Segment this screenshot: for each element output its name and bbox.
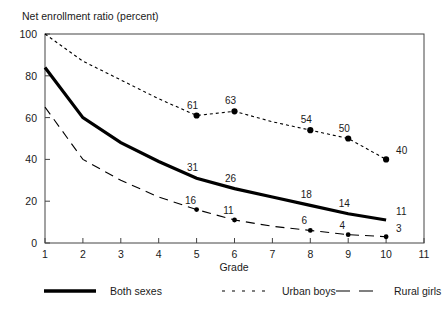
x-tick-label: 9: [345, 248, 351, 260]
data-point-label: 6: [302, 215, 308, 226]
y-tick-label: 100: [19, 28, 37, 40]
chart-series-layer: [45, 34, 386, 237]
y-tick-label: 80: [25, 70, 37, 82]
x-tick-label: 7: [269, 248, 275, 260]
y-axis-tick-labels: 020406080100: [19, 28, 37, 249]
legend-label-both-sexes: Both sexes: [110, 285, 162, 297]
data-point-label: 18: [301, 189, 313, 200]
data-point-label: 26: [225, 173, 237, 184]
data-point-marker: [194, 112, 200, 118]
data-point-label: 16: [185, 195, 197, 206]
data-point-label: 14: [339, 198, 351, 209]
data-point-label: 40: [396, 145, 408, 156]
legend-label-urban-boys: Urban boys: [282, 285, 336, 297]
x-tick-label: 2: [80, 248, 86, 260]
y-tick-label: 40: [25, 153, 37, 165]
data-point-label: 3: [396, 223, 402, 234]
x-axis-title: Grade: [219, 261, 248, 273]
data-point-marker: [307, 127, 313, 133]
y-axis-ticks: [45, 34, 50, 243]
plot-border: [45, 34, 424, 243]
plot-frame: [45, 34, 424, 243]
y-tick-label: 60: [25, 112, 37, 124]
data-point-label: 50: [339, 123, 351, 134]
x-tick-label: 8: [307, 248, 313, 260]
series-line-both-sexes: [45, 67, 386, 220]
data-point-marker: [346, 232, 351, 237]
data-point-label: 54: [301, 114, 313, 125]
x-tick-label: 11: [419, 248, 430, 260]
x-tick-label: 1: [42, 248, 48, 260]
chart-container: Net enrollment ratio (percent) 020406080…: [0, 0, 446, 310]
chart-marker-layer: [194, 108, 390, 239]
data-point-label: 11: [396, 206, 407, 217]
data-point-marker: [345, 135, 351, 141]
data-point-label: 11: [223, 205, 234, 216]
series-line-urban-boys: [45, 34, 386, 159]
x-tick-label: 10: [380, 248, 392, 260]
chart-data-labels: 312618141161635450401611643: [185, 95, 408, 233]
data-point-marker: [231, 108, 237, 114]
x-tick-label: 3: [118, 248, 124, 260]
data-point-marker: [383, 156, 389, 162]
data-point-label: 61: [187, 100, 199, 111]
data-point-marker: [384, 234, 389, 239]
x-axis-ticks: [45, 238, 424, 243]
x-tick-label: 5: [194, 248, 200, 260]
x-tick-label: 6: [232, 248, 238, 260]
legend-label-rural-girls: Rural girls: [394, 285, 441, 297]
data-point-label: 31: [187, 162, 199, 173]
y-tick-label: 20: [25, 195, 37, 207]
data-point-label: 4: [339, 220, 345, 231]
x-tick-label: 4: [156, 248, 162, 260]
chart-plot: 020406080100 1234567891011 Grade 3126181…: [0, 0, 446, 310]
data-point-marker: [194, 207, 199, 212]
x-axis-tick-labels: 1234567891011: [42, 248, 430, 260]
data-point-marker: [232, 218, 237, 223]
data-point-marker: [308, 228, 313, 233]
chart-legend: Both sexesUrban boysRural girls: [44, 285, 441, 297]
y-tick-label: 0: [31, 237, 37, 249]
data-point-label: 63: [225, 95, 237, 106]
